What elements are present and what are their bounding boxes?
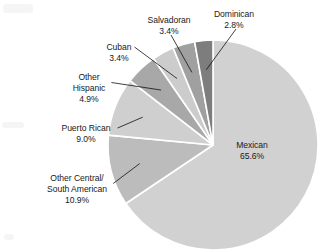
pie-chart-canvas: Mexican65.6%Other Central/South American… — [0, 0, 329, 250]
slice-label: OtherHispanic4.9% — [73, 72, 106, 104]
slice-label: Puerto Rican9.0% — [61, 123, 110, 144]
slice-label: Dominican2.8% — [214, 9, 254, 30]
slice-label: Cuban3.4% — [106, 42, 131, 63]
slice-label: Mexican65.6% — [236, 140, 268, 161]
pie-chart: Mexican65.6%Other Central/South American… — [0, 0, 329, 250]
slice-label: Other Central/South American10.9% — [47, 173, 107, 205]
slice-label: Salvadoran3.4% — [148, 15, 191, 36]
pie-slices — [108, 40, 318, 250]
